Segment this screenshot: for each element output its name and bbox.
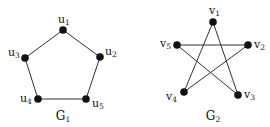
vertex-u5: [82, 95, 90, 103]
vertex-label-v5: v5: [159, 37, 171, 51]
edge-u2-u5: [86, 57, 100, 99]
vertex-label-u5: u5: [92, 97, 104, 111]
vertex-v4: [180, 88, 188, 96]
graph-g1: u1u2u3u4u5G1: [8, 13, 117, 124]
vertex-label-u4: u4: [20, 92, 32, 106]
vertex-v5: [173, 41, 181, 49]
vertex-u1: [59, 26, 67, 34]
vertex-v1: [209, 18, 217, 26]
graph-g2: v1v2v3v4v5G2: [159, 4, 265, 124]
vertex-label-u2: u2: [105, 45, 117, 59]
edge-v1-v3: [213, 22, 238, 95]
vertex-label-v2: v2: [253, 38, 265, 52]
vertex-u2: [96, 53, 104, 61]
vertex-label-v4: v4: [165, 90, 177, 104]
graph-title-1: G2: [206, 109, 221, 124]
edge-u3-u1: [25, 30, 63, 58]
vertex-v2: [244, 41, 252, 49]
edge-u1-u2: [63, 30, 100, 57]
vertex-v3: [234, 91, 242, 99]
vertex-label-v3: v3: [243, 88, 255, 102]
graph-diagram: u1u2u3u4u5G1 v1v2v3v4v5G2: [0, 0, 270, 127]
vertex-u4: [34, 95, 42, 103]
vertex-label-u1: u1: [58, 13, 70, 27]
graph-title-0: G1: [56, 109, 70, 124]
vertex-label-u3: u3: [8, 46, 20, 60]
vertex-label-v1: v1: [208, 4, 220, 18]
vertex-u3: [21, 54, 29, 62]
